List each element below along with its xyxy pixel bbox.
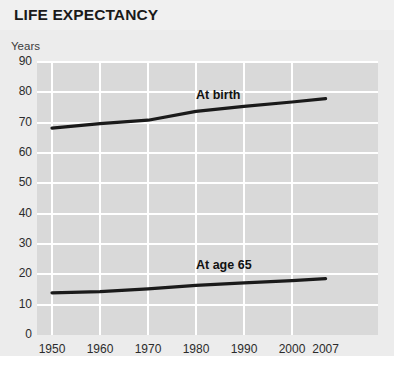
chart-panel: LIFE EXPECTANCY Years 908070605040302010… bbox=[0, 0, 394, 356]
line-at-birth bbox=[52, 99, 326, 128]
plot-area bbox=[37, 62, 378, 335]
title-band: LIFE EXPECTANCY bbox=[0, 0, 394, 30]
y-axis-tick-30: 30 bbox=[2, 236, 32, 250]
series-label-at-age-65: At age 65 bbox=[196, 258, 252, 272]
y-axis-tick-10: 10 bbox=[2, 297, 32, 311]
y-axis-tick-80: 80 bbox=[2, 84, 32, 98]
y-axis-tick-70: 70 bbox=[2, 115, 32, 129]
y-axis-tick-40: 40 bbox=[2, 206, 32, 220]
y-axis-tick-90: 90 bbox=[2, 54, 32, 68]
line-at-age-65 bbox=[52, 279, 326, 293]
y-axis-tick-20: 20 bbox=[2, 266, 32, 280]
series-label-at-birth: At birth bbox=[196, 88, 240, 102]
series-lines bbox=[37, 62, 378, 335]
y-axis-tick-50: 50 bbox=[2, 175, 32, 189]
page-title: LIFE EXPECTANCY bbox=[14, 6, 158, 24]
y-axis-unit-label: Years bbox=[11, 40, 40, 52]
x-axis-tick-2007: 2007 bbox=[296, 342, 356, 356]
chart-page: LIFE EXPECTANCY Years 908070605040302010… bbox=[0, 0, 394, 370]
y-axis-tick-0: 0 bbox=[2, 327, 32, 341]
y-axis-tick-60: 60 bbox=[2, 145, 32, 159]
